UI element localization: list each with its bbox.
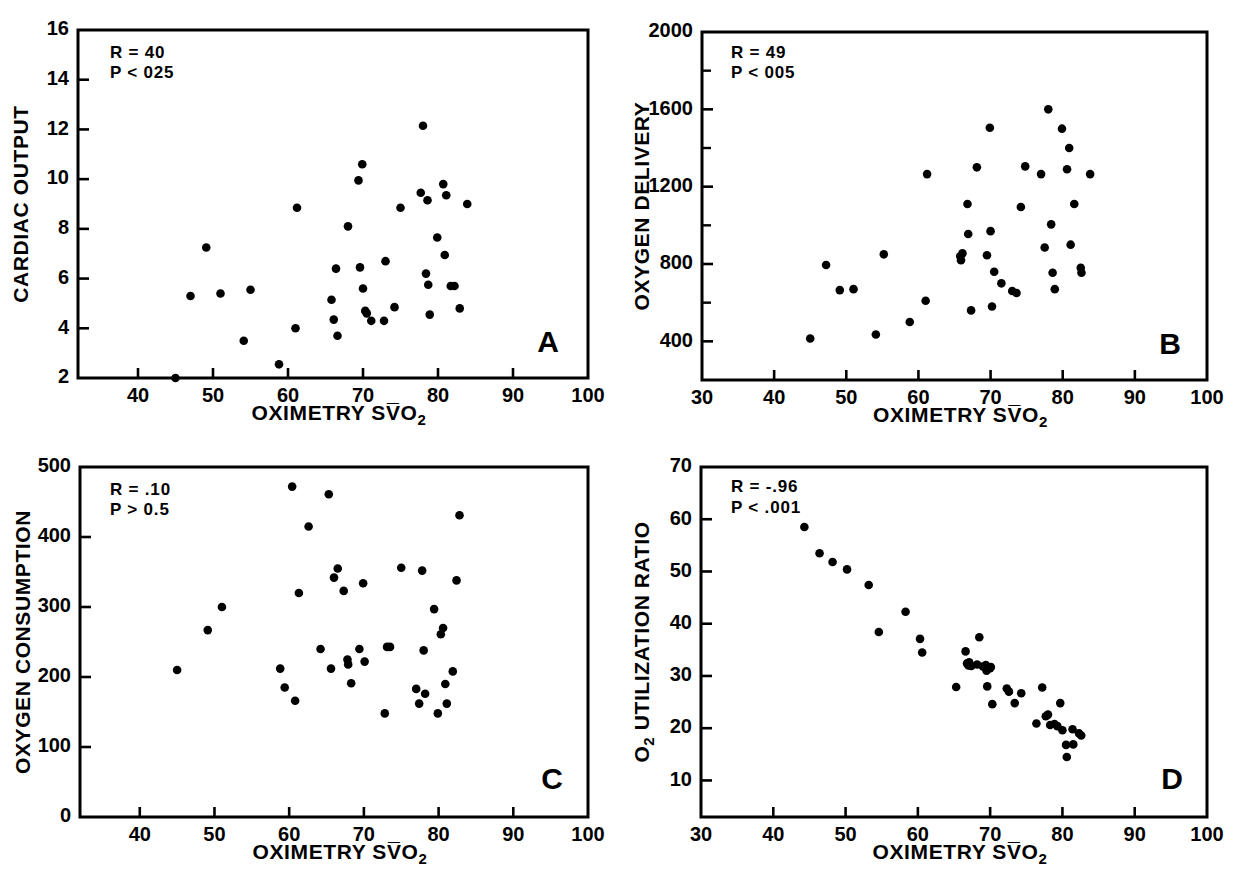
y-axis-title: CARDIAC OUTPUT xyxy=(9,105,32,302)
data-point xyxy=(1062,753,1071,762)
data-point xyxy=(1037,170,1046,179)
data-point xyxy=(418,566,427,575)
annotation-correlation: R = 49 xyxy=(731,43,786,62)
data-point xyxy=(1010,699,1019,708)
y-tick-label: 30 xyxy=(670,663,692,685)
data-point xyxy=(835,286,844,295)
data-point xyxy=(381,257,390,266)
data-point xyxy=(1048,268,1057,277)
data-point xyxy=(344,660,353,669)
data-point xyxy=(333,564,342,573)
y-tick-label: 1600 xyxy=(649,97,694,119)
x-tick-label: 80 xyxy=(427,823,449,845)
data-point xyxy=(918,648,927,657)
x-tick-label: 40 xyxy=(129,823,151,845)
x-tick-label: 40 xyxy=(127,384,149,406)
data-point-group xyxy=(800,523,1085,761)
data-point xyxy=(330,573,339,582)
data-point xyxy=(390,303,399,312)
panel-d-canvas: 1020304050607030405060708090100OXIMETRY … xyxy=(619,437,1238,874)
y-tick-label: 50 xyxy=(670,559,692,581)
data-point xyxy=(324,490,333,499)
data-point xyxy=(988,700,997,709)
data-point xyxy=(362,309,371,318)
y-tick-label: 300 xyxy=(38,594,71,616)
data-point xyxy=(295,589,304,598)
data-point xyxy=(327,295,336,304)
x-tick-label: 100 xyxy=(1190,386,1223,408)
panel-a-cardiac-output: 246810121416405060708090100OXIMETRY SV̅O… xyxy=(0,0,619,437)
y-tick-label: 400 xyxy=(660,329,693,351)
annotation-pvalue: P > 0.5 xyxy=(110,500,170,519)
y-tick-label: 400 xyxy=(38,524,71,546)
data-point xyxy=(986,123,995,132)
data-point xyxy=(1044,105,1053,114)
data-point xyxy=(987,663,996,672)
data-point xyxy=(359,579,368,588)
data-point xyxy=(316,645,325,654)
data-point xyxy=(975,633,984,642)
data-point xyxy=(961,647,970,656)
data-point xyxy=(239,336,248,345)
y-tick-label: 0 xyxy=(60,804,71,826)
data-point xyxy=(386,643,395,652)
data-point xyxy=(806,334,815,343)
y-tick-label: 6 xyxy=(58,266,69,288)
data-point xyxy=(1021,162,1030,171)
data-point xyxy=(424,280,433,289)
data-point xyxy=(1066,240,1075,249)
panel-c-oxygen-consumption: 0100200300400500405060708090100OXIMETRY … xyxy=(0,437,619,874)
y-tick-label: 8 xyxy=(58,216,69,238)
y-tick-label: 60 xyxy=(670,507,692,529)
plot-frame xyxy=(702,32,1207,380)
data-point xyxy=(921,296,930,305)
data-point xyxy=(1005,687,1014,696)
annotation-pvalue: P < 005 xyxy=(731,63,795,82)
data-point xyxy=(442,191,451,200)
annotation-correlation: R = 40 xyxy=(110,43,165,62)
x-axis-title: OXIMETRY SV̅O2 xyxy=(873,840,1048,867)
data-point xyxy=(905,318,914,327)
data-point xyxy=(1077,731,1086,740)
data-point xyxy=(430,605,439,614)
data-point xyxy=(1047,220,1056,229)
y-tick-label: 12 xyxy=(47,117,69,139)
data-point-group xyxy=(173,482,464,717)
x-axis-title: OXIMETRY SV̅O2 xyxy=(873,403,1048,430)
x-tick-label: 100 xyxy=(571,823,604,845)
data-point xyxy=(1086,170,1095,179)
x-axis-title: OXIMETRY SV̅O2 xyxy=(253,840,428,867)
data-point xyxy=(1040,243,1049,252)
data-point xyxy=(439,180,448,189)
y-tick-label: 10 xyxy=(670,768,692,790)
data-point xyxy=(988,302,997,311)
annotation-pvalue: P < 025 xyxy=(110,63,174,82)
data-point xyxy=(443,699,452,708)
data-point xyxy=(952,683,961,692)
data-point xyxy=(990,267,999,276)
data-point xyxy=(359,284,368,293)
x-tick-label: 50 xyxy=(203,823,225,845)
x-tick-label: 40 xyxy=(762,823,784,845)
data-point xyxy=(203,626,212,635)
y-tick-label: 40 xyxy=(670,611,692,633)
data-point xyxy=(440,251,449,260)
data-point xyxy=(815,549,824,558)
data-point xyxy=(280,683,289,692)
data-point xyxy=(1063,165,1072,174)
x-tick-label: 30 xyxy=(691,386,713,408)
data-point xyxy=(354,176,363,185)
data-point xyxy=(864,581,873,590)
x-tick-label: 80 xyxy=(1052,386,1074,408)
data-point xyxy=(416,189,425,198)
data-point xyxy=(1058,124,1067,133)
data-point xyxy=(202,243,211,252)
x-axis-title: OXIMETRY SV̅O2 xyxy=(252,401,427,428)
panel-letter: B xyxy=(1159,327,1181,360)
data-point xyxy=(452,576,461,585)
panel-letter: D xyxy=(1161,762,1183,795)
data-point xyxy=(800,523,809,532)
data-point xyxy=(455,511,464,520)
data-point xyxy=(291,697,300,706)
data-point xyxy=(304,522,313,531)
